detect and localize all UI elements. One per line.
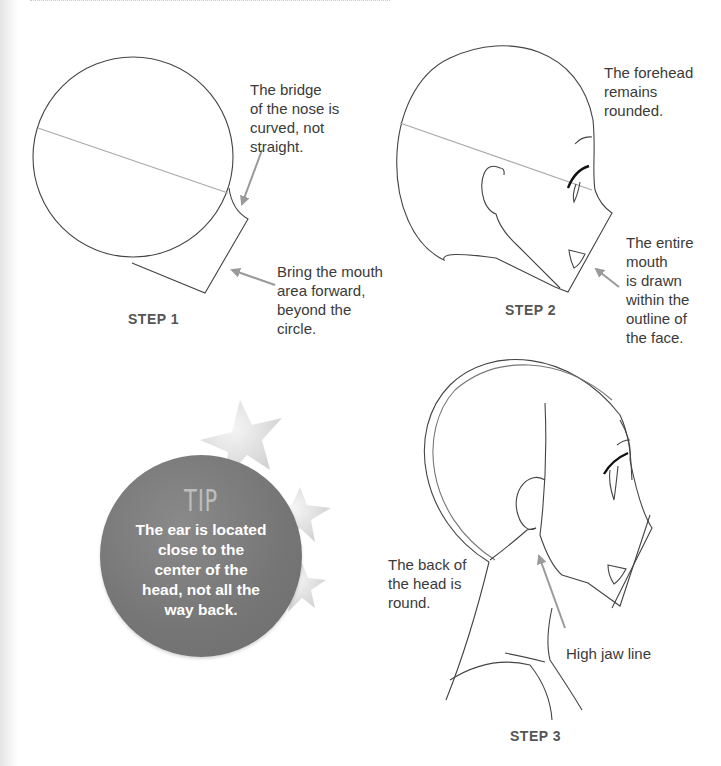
note-mouth-forward: Bring the mouth area forward, beyond the… xyxy=(277,262,383,338)
step3-drawing xyxy=(424,360,652,720)
guide-line xyxy=(38,128,228,193)
jaw-back xyxy=(490,528,536,560)
shoulder xyxy=(450,662,552,720)
note-forehead: The forehead remains rounded. xyxy=(604,63,693,120)
arrow-mouth xyxy=(232,270,275,285)
arrow-nose xyxy=(242,150,262,204)
step1-label: STEP 1 xyxy=(128,311,179,327)
eye xyxy=(610,466,619,500)
collar xyxy=(505,653,545,662)
eye-lash xyxy=(568,166,589,188)
guide-line xyxy=(400,123,592,190)
note-nose-bridge: The bridge of the nose is curved, not st… xyxy=(250,80,339,156)
arrow-jaw xyxy=(539,556,565,628)
step3-label: STEP 3 xyxy=(510,728,561,744)
tip-text: The ear is located close to the center o… xyxy=(100,520,302,620)
brow xyxy=(575,137,592,144)
head-outline-2 xyxy=(433,365,612,560)
face-outline xyxy=(132,188,248,293)
hair-front xyxy=(540,403,650,606)
step2-drawing xyxy=(397,46,612,292)
step2-label: STEP 2 xyxy=(505,302,556,318)
head-circle xyxy=(33,57,233,257)
note-jaw-line: High jaw line xyxy=(566,644,651,663)
ear-top xyxy=(500,168,504,175)
mouth xyxy=(608,565,626,584)
head-outline xyxy=(397,46,612,292)
step1-drawing xyxy=(33,57,248,293)
tip-title: TIP xyxy=(130,483,271,518)
arrow-mouth-step2 xyxy=(596,269,619,287)
eye-lash xyxy=(604,453,628,474)
note-mouth-within: The entire mouth is drawn within the out… xyxy=(626,233,694,347)
note-back-of-head: The back of the head is round. xyxy=(388,555,466,612)
ear xyxy=(516,477,545,529)
